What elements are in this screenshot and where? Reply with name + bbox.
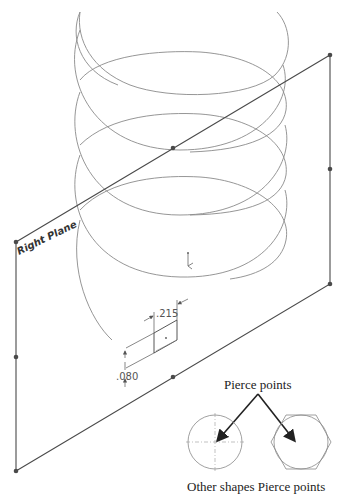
callout-caption: Other shapes Pierce points: [187, 479, 325, 494]
plane-midpoint[interactable]: [171, 375, 176, 380]
callout-title: Pierce points: [224, 377, 292, 392]
helix-path: [75, 12, 289, 340]
origin-icon: [187, 252, 193, 269]
pierce-points-callout: Pierce points Other shapes Pierce points: [186, 377, 331, 494]
dimension-height[interactable]: .080: [116, 333, 154, 387]
dimension-height-label: .080: [116, 371, 138, 382]
plane-vertex[interactable]: [328, 53, 333, 58]
plane-vertex[interactable]: [328, 282, 333, 287]
dimension-width-label: .215: [156, 308, 178, 319]
cad-figure: Right Plane .215 .080 Pierce points: [0, 0, 346, 496]
profile-sketch[interactable]: [154, 320, 177, 353]
circle-shape: [186, 413, 244, 471]
plane-vertex[interactable]: [14, 469, 19, 474]
plane-midpoint[interactable]: [328, 167, 333, 172]
dimension-width[interactable]: .215: [144, 299, 188, 333]
plane-midpoint[interactable]: [14, 355, 19, 360]
plane-vertex[interactable]: [14, 240, 19, 245]
plane-midpoint[interactable]: [171, 146, 176, 151]
